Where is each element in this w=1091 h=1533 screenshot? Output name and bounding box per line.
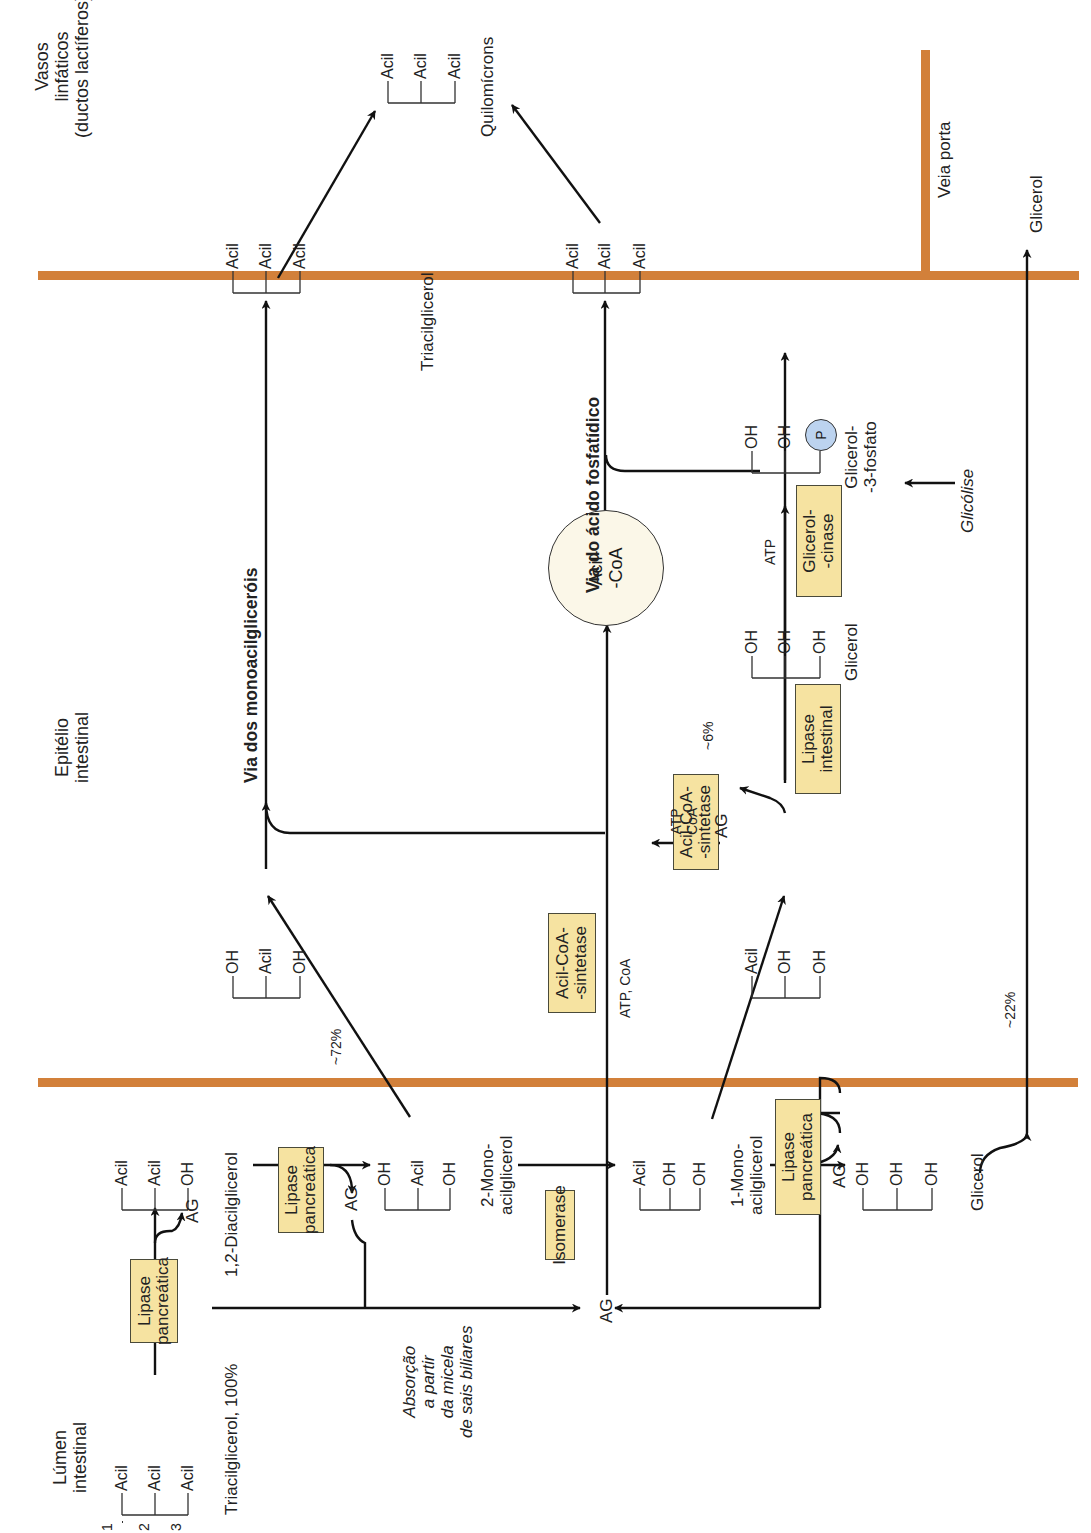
label-atp-coa-2: ATP CoA xyxy=(668,808,700,835)
label-ag-epithelium: AG xyxy=(712,813,731,838)
enzyme-pancreatic-lipase-1: Lipase pancreática xyxy=(130,1259,178,1343)
enzyme-pancreatic-lipase-2: Lipase pancreática xyxy=(278,1147,324,1233)
label-phosphatidic-acid-pathway: Via do ácido fosfatídico xyxy=(584,397,603,593)
lipid-absorption-diagram: Lúmen intestinal Epitélio intestinal Vas… xyxy=(0,0,1091,1533)
label-monoacylglycerol-pathway: Via dos monoacilgliceróis xyxy=(242,567,261,783)
label-atp: ATP xyxy=(762,539,778,565)
label-ag-center: AG xyxy=(597,1298,616,1323)
label-triacylglycerol-epithelium: Triacilglicerol xyxy=(418,272,437,371)
label-percent-6: ~6% xyxy=(700,722,716,750)
enzyme-pancreatic-lipase-3: Lipase pancreática xyxy=(775,1099,821,1215)
label-glycerol-lumen: Glicerol xyxy=(968,1153,987,1211)
label-chylomicrons: Quilomícrons xyxy=(478,37,497,137)
label-diacylglycerol: 1,2-Diacilglicerol xyxy=(222,1152,241,1277)
enzyme-isomerase: Isomerase xyxy=(545,1190,575,1260)
enzyme-intestinal-lipase: Lipase intestinal xyxy=(795,684,841,794)
region-label-portal-vein: Veia porta xyxy=(935,121,954,198)
label-glycerol-epithelium: Glicerol xyxy=(842,623,861,681)
enzyme-acyl-coa-synthetase-1: Acil-CoA- -sintetase xyxy=(548,913,596,1013)
label-glycolysis: Glicólise xyxy=(958,469,977,533)
label-ag-2: AG xyxy=(342,1186,361,1211)
label-absorption-micelle: Absorção a partir da micela de sais bili… xyxy=(400,1326,476,1438)
region-label-lumen: Lúmen intestinal xyxy=(50,1422,90,1493)
label-ag-1: AG xyxy=(183,1198,202,1223)
label-atp-coa-1: ATP, CoA xyxy=(617,959,633,1018)
label-1-monoacylglycerol: 1-Mono- acilglicerol xyxy=(728,1136,766,1215)
enzyme-glycerol-kinase: Glicerol- -cinase xyxy=(796,485,842,597)
phosphate-icon: P xyxy=(805,419,837,451)
label-glycerol-3-phosphate: Glicerol- -3-fosfato xyxy=(842,421,880,493)
label-glycerol-portal: Glicerol xyxy=(1027,175,1046,233)
region-label-lymphatic: Vasos linfáticos (ductos lactíferos) xyxy=(32,0,92,138)
label-triacylglycerol-100: Triacilglicerol, 100% xyxy=(222,1364,241,1515)
region-label-epithelium: Epitélio intestinal xyxy=(52,712,92,783)
label-ag-3: AG xyxy=(830,1163,849,1188)
label-2-monoacylglycerol: 2-Mono- acilglicerol xyxy=(478,1136,516,1215)
acyl-coa-node: Acil- -CoA xyxy=(548,510,664,626)
label-percent-22: ~22% xyxy=(1002,992,1018,1028)
label-percent-72: ~72% xyxy=(328,1029,344,1065)
